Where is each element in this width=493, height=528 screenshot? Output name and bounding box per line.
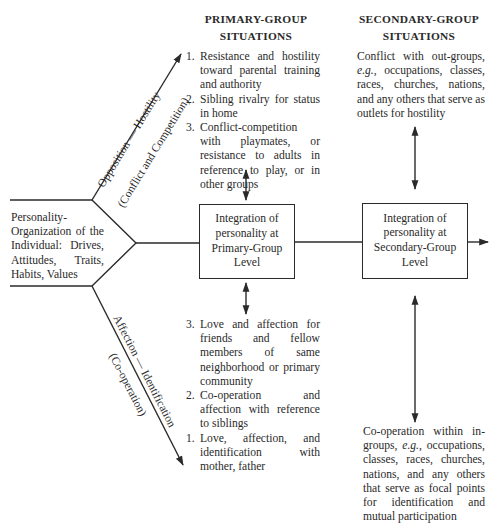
secondary-heading-line2: SITUATIONS xyxy=(355,28,483,45)
secondary-integration-box: Integration of personality at Secondary-… xyxy=(362,203,468,279)
list-item: 2.Sibling rivalry for status in home xyxy=(186,93,320,121)
personality-organization-text: Personality-Organization of the Individu… xyxy=(11,211,104,282)
affection-arrow xyxy=(92,286,183,465)
secondary-heading: SECONDARY-GROUP SITUATIONS xyxy=(355,11,483,44)
secondary-cooperation-text: Co-operation within in-groups, e.g., occ… xyxy=(363,425,485,524)
primary-affection-list: 3.Love and affection for friends and fel… xyxy=(186,318,320,474)
primary-integration-box: Integration of personality at Primary-Gr… xyxy=(199,204,295,279)
primary-heading: PRIMARY-GROUP SITUATIONS xyxy=(196,11,316,44)
secondary-heading-line1: SECONDARY-GROUP xyxy=(355,11,483,28)
list-item: 3.Conflict-competition with playmates, o… xyxy=(186,121,320,192)
primary-heading-line2: SITUATIONS xyxy=(196,28,316,45)
list-item: 2.Co-operation and affection with refere… xyxy=(186,389,320,432)
secondary-conflict-text: Conflict with out-groups, e.g., occupati… xyxy=(357,50,485,121)
primary-opposition-list: 1.Resistance and hostility toward parent… xyxy=(186,50,320,192)
primary-heading-line1: PRIMARY-GROUP xyxy=(196,11,316,28)
list-item: 1.Love, affection, and identification wi… xyxy=(186,432,320,475)
list-item: 1.Resistance and hostility toward parent… xyxy=(186,50,320,93)
list-item: 3.Love and affection for friends and fel… xyxy=(186,318,320,389)
